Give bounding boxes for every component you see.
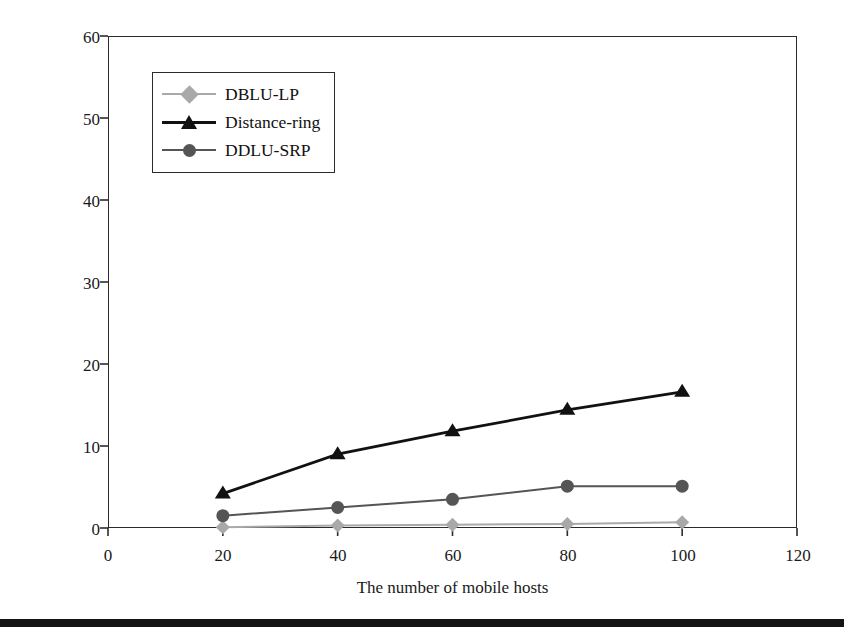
legend-swatch-diamond-icon bbox=[162, 83, 216, 105]
chart-figure: Paging signals per unit time 0 10 20 30 … bbox=[0, 0, 844, 643]
legend-label: DBLU-LP bbox=[225, 84, 299, 105]
x-axis-title: The number of mobile hosts bbox=[108, 578, 797, 598]
legend-item[interactable]: DDLU-SRP bbox=[162, 136, 320, 164]
legend-item[interactable]: Distance-ring bbox=[162, 108, 320, 136]
legend-label: Distance-ring bbox=[225, 112, 320, 133]
legend-label: DDLU-SRP bbox=[225, 140, 311, 161]
legend: DBLU-LP Distance-ring DDLU-SRP bbox=[152, 72, 335, 173]
series-layer bbox=[0, 0, 844, 643]
page-divider-rule bbox=[0, 619, 844, 627]
legend-item[interactable]: DBLU-LP bbox=[162, 80, 320, 108]
legend-swatch-circle-icon bbox=[162, 139, 216, 161]
legend-swatch-triangle-icon bbox=[162, 111, 216, 133]
series-lines bbox=[223, 392, 682, 527]
